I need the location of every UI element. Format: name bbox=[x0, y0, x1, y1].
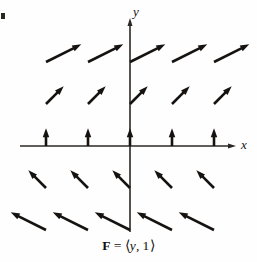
caption-close-bracket: ⟩ bbox=[150, 238, 155, 253]
y-axis-arrowhead bbox=[128, 18, 133, 26]
arrow-shaft bbox=[17, 216, 46, 230]
arrow-head bbox=[198, 44, 208, 51]
y-axis-label: y bbox=[133, 5, 139, 18]
field-arrow bbox=[11, 212, 46, 230]
arrow-shaft bbox=[172, 48, 201, 62]
arrow-shaft bbox=[201, 175, 214, 188]
arrow-shaft bbox=[59, 216, 88, 230]
field-arrow bbox=[88, 44, 123, 62]
field-arrow bbox=[214, 44, 249, 62]
field-arrow bbox=[179, 212, 214, 230]
arrow-shaft bbox=[88, 48, 117, 62]
caption-comma: , bbox=[136, 238, 140, 253]
field-arrow bbox=[127, 128, 134, 146]
field-arrow bbox=[28, 170, 46, 188]
arrow-head bbox=[127, 128, 134, 137]
field-arrow bbox=[43, 128, 50, 146]
field-arrow bbox=[169, 128, 176, 146]
arrow-shaft bbox=[117, 175, 130, 188]
field-arrow bbox=[95, 212, 130, 230]
arrow-shaft bbox=[214, 48, 243, 62]
arrow-head bbox=[169, 128, 176, 137]
caption-field-symbol: F bbox=[102, 238, 110, 253]
field-arrow bbox=[130, 86, 148, 104]
arrow-shaft bbox=[185, 216, 214, 230]
figure-caption: F=⟨y,1⟩ bbox=[0, 239, 257, 254]
caption-equals: = bbox=[114, 238, 122, 253]
field-arrow bbox=[214, 86, 232, 104]
arrow-shaft bbox=[159, 175, 172, 188]
arrow-head bbox=[211, 128, 218, 137]
field-arrow bbox=[211, 128, 218, 146]
field-arrow bbox=[85, 128, 92, 146]
arrow-head bbox=[137, 212, 147, 219]
vector-field-figure: y x F=⟨y,1⟩ bbox=[0, 0, 257, 262]
field-arrow bbox=[172, 86, 190, 104]
arrow-shaft bbox=[75, 175, 88, 188]
arrow-head bbox=[156, 44, 166, 51]
arrow-shaft bbox=[130, 91, 143, 104]
caption-component-y: 1 bbox=[143, 238, 150, 253]
arrow-head bbox=[72, 44, 82, 51]
arrow-shaft bbox=[172, 91, 185, 104]
field-arrow bbox=[112, 170, 130, 188]
field-arrow bbox=[154, 170, 172, 188]
arrow-shaft bbox=[88, 91, 101, 104]
arrow-head bbox=[95, 212, 105, 219]
field-arrow bbox=[172, 44, 207, 62]
arrow-shaft bbox=[46, 91, 59, 104]
field-arrow bbox=[46, 44, 81, 62]
field-arrow bbox=[196, 170, 214, 188]
arrow-head bbox=[240, 44, 250, 51]
arrow-head bbox=[11, 212, 20, 219]
arrow-shaft bbox=[46, 48, 75, 62]
arrow-shaft bbox=[143, 216, 172, 230]
field-arrow bbox=[137, 212, 172, 230]
field-arrow bbox=[46, 86, 64, 104]
arrow-shaft bbox=[33, 175, 46, 188]
field-arrow bbox=[88, 86, 106, 104]
arrow-shaft bbox=[130, 48, 159, 62]
field-arrow bbox=[53, 212, 88, 230]
field-arrow bbox=[70, 170, 88, 188]
arrow-head bbox=[43, 128, 50, 137]
vector-field-canvas bbox=[0, 0, 257, 262]
arrow-head bbox=[53, 212, 63, 219]
axes-group bbox=[20, 18, 236, 232]
arrow-head bbox=[114, 44, 124, 51]
arrow-shaft bbox=[214, 91, 227, 104]
arrow-head bbox=[85, 128, 92, 137]
arrow-shaft bbox=[101, 216, 130, 230]
arrow-head bbox=[179, 212, 189, 219]
field-arrow bbox=[130, 44, 165, 62]
x-axis-label: x bbox=[241, 138, 247, 151]
x-axis-arrowhead bbox=[228, 144, 236, 149]
